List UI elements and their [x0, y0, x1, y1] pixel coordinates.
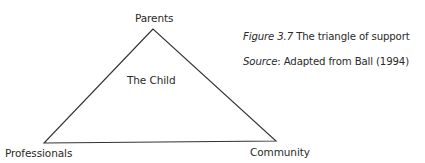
center-label-the-child: The Child	[127, 74, 175, 86]
caption-title: The triangle of support	[296, 31, 409, 42]
caption-source-line: Source: Adapted from Ball (1994)	[243, 55, 410, 69]
triangle-of-support-diagram: Parents The Child Professionals Communit…	[0, 0, 425, 163]
figure-caption: Figure 3.7 The triangle of support Sourc…	[243, 30, 410, 69]
caption-source-text: Adapted from Ball (1994)	[284, 56, 409, 67]
triangle-shape	[0, 0, 425, 163]
caption-figure-number: 3.7	[277, 31, 293, 42]
triangle-outline	[44, 29, 276, 143]
caption-figure-prefix: Figure	[243, 31, 274, 42]
vertex-label-professionals: Professionals	[5, 147, 72, 159]
vertex-label-parents: Parents	[135, 12, 173, 24]
caption-source-prefix: Source	[243, 56, 277, 67]
vertex-label-community: Community	[250, 146, 310, 158]
caption-title-line: Figure 3.7 The triangle of support	[243, 30, 410, 44]
